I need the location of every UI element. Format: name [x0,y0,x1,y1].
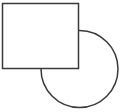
figure-canvas [0,0,125,112]
shape-diagram-svg [0,0,125,112]
rectangle-shape [3,4,79,69]
